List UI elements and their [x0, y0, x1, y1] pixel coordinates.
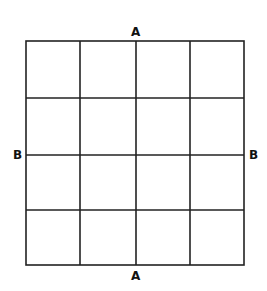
label-bottom-a: A — [131, 270, 140, 282]
grid-border — [26, 41, 244, 265]
label-top-a: A — [131, 26, 140, 38]
grid-diagram — [0, 0, 267, 291]
label-right-b: B — [249, 149, 258, 161]
label-left-b: B — [13, 149, 22, 161]
